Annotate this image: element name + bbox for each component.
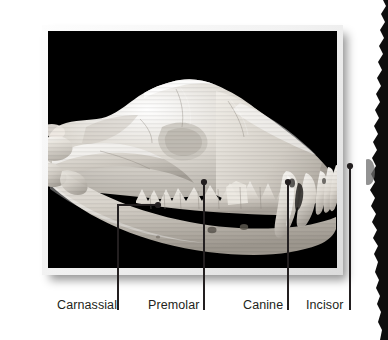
edge-bleed-silhouette <box>366 0 388 340</box>
callout-label-carnassial: Carnassial <box>57 298 117 312</box>
leader-dot-incisor <box>347 163 353 169</box>
callout-label-canine: Canine <box>243 298 283 312</box>
photo-canvas <box>48 31 337 268</box>
photo-frame <box>42 25 343 275</box>
callout-label-premolar: Premolar <box>148 298 200 312</box>
callout-label-row: Carnassial Premolar Canine Incisor <box>0 296 388 320</box>
figure-root: Carnassial Premolar Canine Incisor <box>0 0 388 340</box>
edge-bleed-smudge-icon <box>366 159 375 185</box>
callout-label-incisor: Incisor <box>306 298 344 312</box>
edge-bleed-silhouette-icon <box>366 0 388 340</box>
dog-skull-illustration <box>48 31 337 268</box>
